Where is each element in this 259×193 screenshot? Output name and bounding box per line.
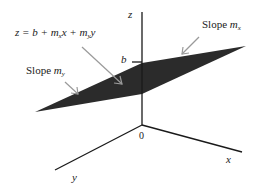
y-axis [55,125,142,170]
plane-surface [35,46,246,112]
x-axis [142,125,242,152]
slope-x-arrow [182,37,199,54]
origin-label: 0 [139,131,144,141]
slope-y-label: Slope my [26,65,65,78]
slope-y-arrow [65,82,78,94]
y-axis-label: y [72,172,77,183]
plane-equation: z = b + mxx + myy [15,27,95,40]
x-axis-label: x [226,154,231,165]
equation-arrow [82,47,122,84]
intercept-b-label: b [121,54,127,65]
z-axis-label: z [128,9,132,20]
slope-x-label: Slope mx [202,19,241,32]
